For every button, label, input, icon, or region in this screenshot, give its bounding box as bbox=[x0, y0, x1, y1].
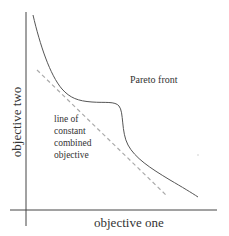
constant-line-label-line: objective bbox=[54, 149, 114, 161]
x-axis-label: objective one bbox=[94, 215, 164, 231]
stray-dot bbox=[197, 154, 199, 156]
constant-line-label-line: combined bbox=[54, 137, 114, 149]
constant-line-label: line of constant combined objective bbox=[54, 113, 114, 161]
constant-line-label-line: constant bbox=[54, 125, 114, 137]
pareto-front-curve bbox=[33, 15, 198, 197]
constant-line-label-line: line of bbox=[54, 113, 114, 125]
pareto-front-label: Pareto front bbox=[130, 74, 178, 85]
diagram-canvas bbox=[0, 0, 229, 236]
y-axis-label: objective two bbox=[9, 77, 25, 167]
